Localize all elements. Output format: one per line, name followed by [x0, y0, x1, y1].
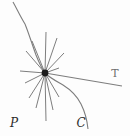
- radial-arrows-group: [20, 32, 64, 121]
- radial-arrow: [45, 38, 57, 73]
- radial-arrow: [45, 32, 46, 73]
- curve-label: C: [76, 116, 85, 130]
- figure-canvas: P C T: [0, 0, 130, 136]
- radial-arrow: [36, 73, 45, 108]
- radial-arrow: [20, 71, 45, 73]
- tangent-label: T: [111, 67, 119, 80]
- radial-arrow: [45, 73, 46, 121]
- point-label: P: [9, 116, 19, 130]
- curve-upper-segment: [13, 2, 25, 24]
- tangent-secant-figure: P C T: [0, 0, 130, 136]
- radial-arrow: [32, 41, 45, 73]
- point-dot: [42, 70, 49, 77]
